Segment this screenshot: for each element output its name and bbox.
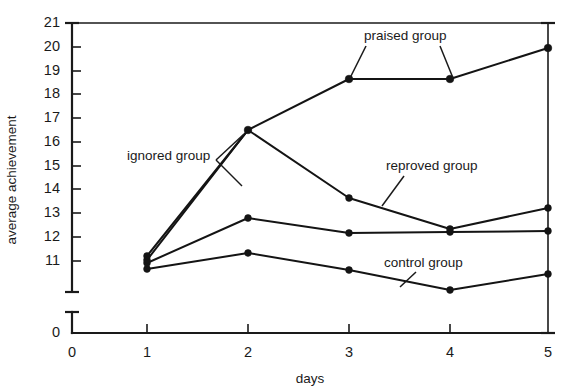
ignored-group-point-day2 <box>245 215 252 222</box>
y-tick-label-13: 13 <box>44 204 60 220</box>
praised-group-point-day5 <box>544 44 552 52</box>
praised-group-leader-left <box>350 46 366 78</box>
x-tick-label-1: 1 <box>143 344 151 360</box>
x-tick-label-2: 2 <box>244 344 252 360</box>
ignored-group-point-day5 <box>545 228 552 235</box>
annotation-labels: praised group ignored group reproved gro… <box>127 28 478 270</box>
y-tick-label-17: 17 <box>44 109 60 125</box>
ignored-group-point-day3 <box>346 230 353 237</box>
y-axis-tick-labels: 21 20 19 18 17 16 15 14 13 12 11 0 <box>44 14 60 340</box>
y-tick-label-21: 21 <box>44 14 60 30</box>
y-tick-label-14: 14 <box>44 180 60 196</box>
reproved-group-point-day3 <box>346 195 353 202</box>
control-group-label: control group <box>384 255 463 270</box>
control-group-leader <box>400 272 416 287</box>
x-axis-title: days <box>296 371 325 386</box>
x-tick-label-4: 4 <box>446 344 454 360</box>
series-ignored-group <box>144 215 552 267</box>
reproved-group-label: reproved group <box>386 158 478 173</box>
x-tick-label-0: 0 <box>68 344 76 360</box>
praised-group-leader-right <box>440 46 453 78</box>
y-axis-ticks <box>72 47 81 261</box>
y-tick-label-19: 19 <box>44 62 60 78</box>
series-reproved-group <box>144 126 552 263</box>
x-tick-label-5: 5 <box>544 344 552 360</box>
ignored-group-leader-lower <box>216 160 242 186</box>
reproved-group-leader <box>382 176 404 206</box>
chart-canvas: 21 20 19 18 17 16 15 14 13 12 11 0 0 1 2… <box>0 0 567 392</box>
x-axis-ticks <box>147 324 450 333</box>
ignored-group-label: ignored group <box>127 148 210 163</box>
y-tick-label-18: 18 <box>44 85 60 101</box>
y-tick-label-20: 20 <box>44 38 60 54</box>
praised-group-point-day1 <box>144 253 151 260</box>
ignored-group-line <box>147 218 548 263</box>
control-group-point-day2 <box>245 250 252 257</box>
y-tick-label-12: 12 <box>44 228 60 244</box>
x-axis-tick-labels: 0 1 2 3 4 5 <box>68 344 552 360</box>
y-tick-label-11: 11 <box>45 252 60 268</box>
chart-figure: 21 20 19 18 17 16 15 14 13 12 11 0 0 1 2… <box>0 0 567 392</box>
control-group-point-day5 <box>545 271 552 278</box>
series-control-group <box>144 250 552 294</box>
praised-group-label: praised group <box>364 28 447 43</box>
ignored-group-leader-upper <box>216 134 244 160</box>
y-tick-label-0: 0 <box>52 324 60 340</box>
reproved-group-point-day4 <box>447 226 454 233</box>
y-tick-label-15: 15 <box>44 157 60 173</box>
x-tick-label-3: 3 <box>345 344 353 360</box>
y-axis-title: average achievement <box>4 115 19 244</box>
y-tick-label-16: 16 <box>44 133 60 149</box>
control-group-point-day4 <box>447 287 454 294</box>
control-group-point-day3 <box>346 267 353 274</box>
reproved-group-point-day5 <box>545 205 552 212</box>
